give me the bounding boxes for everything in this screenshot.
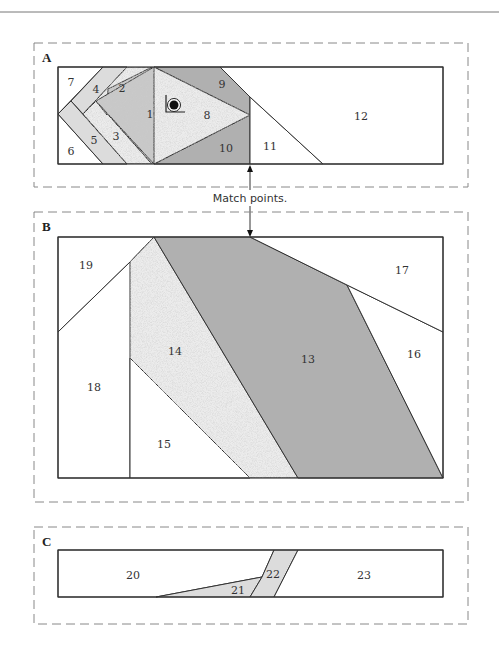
piece-19-label: 19 [79, 259, 93, 272]
piece-2-label: 2 [119, 82, 126, 95]
match-point-arrow-up-icon [247, 165, 253, 172]
piece-21-label: 21 [231, 584, 245, 597]
piece-13-label: 13 [301, 353, 315, 366]
match-points-caption: Match points. [213, 192, 287, 205]
piece-4-label: 4 [93, 83, 100, 96]
piece-20-label: 20 [126, 569, 140, 582]
piece-16-label: 16 [407, 348, 421, 361]
section-b: B 19 18 15 14 13 16 17 [34, 212, 468, 502]
section-a-label: A [42, 50, 52, 65]
piece-11-label: 11 [263, 140, 277, 153]
section-c-label: C [42, 534, 51, 549]
piece-8-label: 8 [204, 109, 211, 122]
piece-18-label: 18 [87, 381, 101, 394]
piece-14-label: 14 [168, 345, 182, 358]
piece-15-label: 15 [157, 438, 171, 451]
section-a: A 1 2 3 4 5 6 7 8 9 10 11 12 [34, 43, 468, 187]
piece-3-label: 3 [113, 130, 120, 143]
piece-7-label: 7 [68, 76, 75, 89]
piece-6-label: 6 [68, 145, 75, 158]
piece-22-label: 22 [266, 568, 280, 581]
section-c: C 20 21 22 23 [34, 527, 468, 624]
piece-17-label: 17 [395, 264, 409, 277]
piece-5-label: 5 [91, 134, 98, 147]
piece-12-label: 12 [354, 110, 368, 123]
section-b-label: B [42, 219, 51, 234]
piece-10-label: 10 [219, 142, 233, 155]
piece-1-label: 1 [147, 108, 154, 121]
piece-23-label: 23 [357, 569, 371, 582]
piece-9-label: 9 [219, 78, 226, 91]
foundation-pattern-diagram: A 1 2 3 4 5 6 7 8 9 10 11 12 [0, 0, 499, 657]
match-points-indicator: Match points. [212, 165, 290, 237]
match-point-arrow-down-icon [247, 230, 253, 237]
